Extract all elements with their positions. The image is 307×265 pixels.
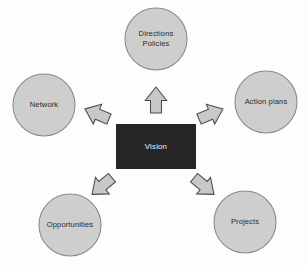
arrow-down-right-icon (187, 169, 221, 202)
node-directions-policies-label: Policies (143, 39, 170, 48)
arrow-down-right-shape (187, 169, 221, 202)
arrow-down-left-shape (85, 169, 119, 202)
arrow-up-left-shape (81, 99, 113, 129)
arrow-up-shape (145, 87, 166, 113)
center-vision-label: Vision (145, 142, 167, 151)
arrow-down-left-icon (85, 169, 119, 202)
center-layer: Vision (116, 124, 196, 169)
node-action-plans[interactable]: Action plans (235, 71, 297, 133)
center-vision-box[interactable]: Vision (116, 124, 196, 169)
node-opportunities-label: Opportunities (47, 220, 94, 229)
node-network[interactable]: Network (13, 74, 75, 136)
arrow-up-right-shape (195, 99, 227, 129)
node-opportunities[interactable]: Opportunities (39, 194, 101, 256)
diagram-canvas: DirectionsPoliciesNetworkAction plansOpp… (0, 0, 307, 265)
node-directions-policies-label: Directions (139, 29, 174, 38)
arrow-up-right-icon (195, 99, 227, 129)
node-network-label: Network (30, 100, 59, 109)
arrow-up-left-icon (81, 99, 113, 129)
node-projects[interactable]: Projects (214, 191, 276, 253)
vision-diagram: DirectionsPoliciesNetworkAction plansOpp… (0, 0, 307, 265)
arrow-up-icon (145, 87, 166, 113)
node-action-plans-label: Action plans (245, 97, 288, 106)
node-directions-policies[interactable]: DirectionsPolicies (125, 8, 187, 70)
node-projects-label: Projects (231, 217, 259, 226)
